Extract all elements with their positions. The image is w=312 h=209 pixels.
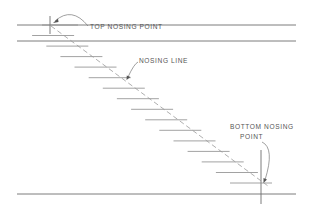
top-nosing-point-label: TOP NOSING POINT — [90, 23, 163, 30]
top-nosing-leader — [55, 15, 88, 26]
bottom-nosing-arrowhead — [264, 178, 268, 183]
nosing-line-label: NOSING LINE — [139, 57, 188, 64]
nosing-line-leader — [128, 62, 138, 77]
top-nosing-arrowhead — [53, 19, 59, 24]
stair-nosing-diagram: TOP NOSING POINT NOSING LINE BOTTOM NOSI… — [0, 0, 312, 209]
treads — [32, 25, 272, 183]
bottom-nosing-leader — [262, 142, 269, 180]
bottom-nosing-label-line1: BOTTOM NOSING — [230, 123, 294, 130]
bottom-nosing-label-line2: POINT — [240, 133, 263, 140]
